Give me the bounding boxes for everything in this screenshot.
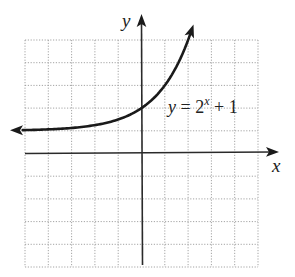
y-axis-label: y: [120, 10, 131, 31]
function-curve: [10, 25, 194, 136]
equation-tail: + 1: [209, 97, 237, 117]
exponential-function-graph: x y y = 2x + 1: [0, 0, 295, 277]
equation-var-y: y: [166, 97, 176, 117]
axes: x y: [25, 10, 281, 265]
equation-equals-base: = 2: [176, 97, 204, 117]
equation-label: y = 2x + 1: [166, 94, 238, 117]
y-axis: [142, 22, 143, 265]
x-axis-label: x: [271, 155, 281, 176]
curve-left-arrow-icon: [10, 125, 23, 135]
x-axis: [25, 152, 272, 154]
curve-y-2-pow-x-plus-1: [23, 32, 191, 130]
